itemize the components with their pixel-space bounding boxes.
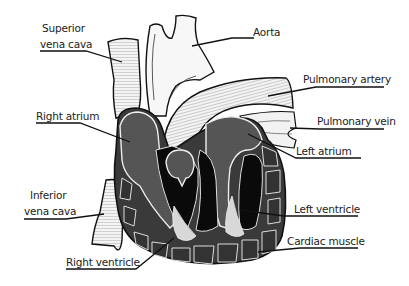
superior-vena-cava <box>108 38 141 118</box>
label-left-ventricle: Left ventricle <box>294 203 360 215</box>
label-right-ventricle: Right ventricle <box>66 256 140 268</box>
label-pulmonary-artery: Pulmonary artery <box>303 73 391 85</box>
label-superior-vena-cava-line2: vena cava <box>40 38 92 50</box>
heart-body <box>114 108 285 264</box>
label-right-atrium: Right atrium <box>36 110 99 122</box>
label-pulmonary-vein: Pulmonary vein <box>317 115 396 127</box>
label-left-atrium: Left atrium <box>296 145 352 157</box>
label-inferior-vena-cava-line2: vena cava <box>24 205 76 217</box>
label-aorta: Aorta <box>253 26 280 38</box>
label-cardiac-muscle: Cardiac muscle <box>287 235 365 247</box>
label-inferior-vena-cava-line1: Inferior <box>30 189 66 201</box>
label-superior-vena-cava-line1: Superior <box>42 22 85 34</box>
heart-diagram: Superior vena cava Aorta Pulmonary arter… <box>0 0 409 286</box>
